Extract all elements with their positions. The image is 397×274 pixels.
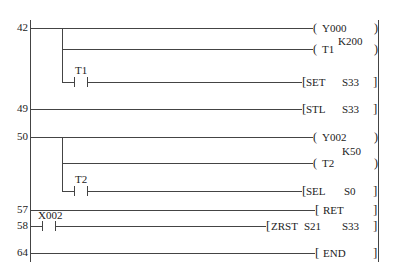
instruction-close-bracket-icon: ]	[373, 219, 377, 232]
rung-line	[30, 210, 315, 211]
instruction-operand: S0	[344, 186, 356, 197]
rung-line	[30, 226, 268, 227]
contact-label: T1	[75, 65, 87, 76]
instruction-text: ZRST	[271, 221, 298, 232]
instruction-text: RET	[323, 205, 344, 216]
step-number: 57	[2, 204, 28, 215]
coil-close-icon: )	[374, 22, 378, 34]
no-contact-icon	[42, 221, 56, 231]
contact-label: X002	[38, 210, 62, 221]
coil-open-icon: (	[313, 157, 317, 169]
instruction-close-bracket-icon: ]	[373, 246, 377, 259]
coil-operand: Y000	[322, 23, 346, 34]
instruction-operand-2: S33	[342, 221, 359, 232]
step-number: 58	[2, 220, 28, 231]
branch-line	[62, 28, 63, 83]
instruction-text: SET	[306, 77, 326, 88]
timer-preset: K200	[338, 36, 362, 47]
contact-label: T2	[75, 174, 87, 185]
instruction-operand: S33	[342, 77, 359, 88]
instruction-open-bracket-icon: [	[266, 219, 270, 232]
branch-line	[62, 137, 63, 192]
instruction-close-bracket-icon: ]	[373, 75, 377, 88]
branch-rung-line	[62, 49, 315, 50]
coil-close-icon: )	[374, 157, 378, 169]
instruction-close-bracket-icon: ]	[373, 102, 377, 115]
coil-open-icon: (	[313, 22, 317, 34]
coil-close-icon: )	[374, 131, 378, 143]
rung-line	[30, 109, 302, 110]
coil-open-icon: (	[313, 43, 317, 55]
instruction-open-bracket-icon: [	[315, 203, 319, 216]
no-contact-icon	[74, 186, 88, 196]
branch-rung-line	[62, 191, 302, 192]
step-number: 42	[2, 22, 28, 33]
instruction-close-bracket-icon: ]	[373, 184, 377, 197]
coil-operand: T1	[322, 44, 334, 55]
instruction-operand: S33	[342, 104, 359, 115]
instruction-text: SEL	[306, 186, 326, 197]
no-contact-icon	[74, 77, 88, 87]
instruction-open-bracket-icon: [	[315, 246, 319, 259]
step-number: 64	[2, 247, 28, 258]
right-power-rail	[378, 20, 379, 262]
coil-operand: Y002	[322, 132, 346, 143]
instruction-text: END	[323, 248, 346, 259]
instruction-text: STL	[306, 104, 326, 115]
branch-rung-line	[62, 82, 302, 83]
step-number: 50	[2, 131, 28, 142]
rung-line	[30, 28, 315, 29]
coil-close-icon: )	[374, 43, 378, 55]
coil-operand: T2	[322, 158, 334, 169]
instruction-close-bracket-icon: ]	[373, 203, 377, 216]
step-number: 49	[2, 103, 28, 114]
branch-rung-line	[62, 163, 315, 164]
instruction-operand-1: S21	[304, 221, 321, 232]
rung-line	[30, 253, 315, 254]
rung-line	[30, 137, 315, 138]
timer-preset: K50	[342, 146, 361, 157]
coil-open-icon: (	[313, 131, 317, 143]
